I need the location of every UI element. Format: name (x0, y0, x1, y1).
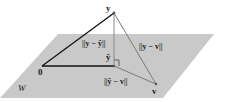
label-dist-y-v: ||y − v|| (139, 43, 163, 51)
point-y-dot (113, 12, 116, 15)
projection-diagram (0, 0, 225, 102)
label-plane-w: W (18, 84, 26, 93)
label-y-hat: ŷ (106, 53, 111, 62)
point-v-dot (155, 83, 157, 85)
label-y: y (106, 4, 111, 13)
label-dist-y-yhat: ||y − ŷ|| (82, 40, 106, 48)
label-dist-yhat-v: ||ŷ − v|| (104, 78, 128, 86)
point-yhat-dot (113, 65, 115, 67)
label-zero: 0 (38, 68, 43, 77)
label-v: v (152, 87, 157, 96)
